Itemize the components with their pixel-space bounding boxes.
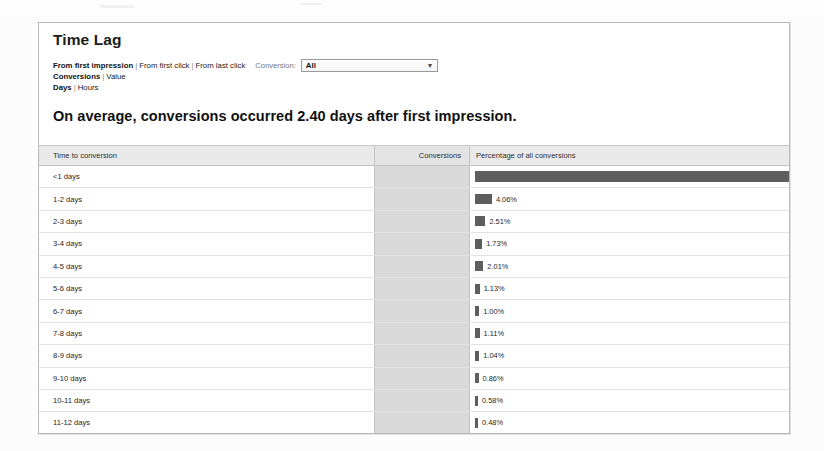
column-header-label: Conversions bbox=[419, 151, 469, 160]
percentage-label: 0.58% bbox=[482, 396, 503, 405]
cell-time-to-conversion: 7-8 days bbox=[39, 323, 374, 344]
cell-conversions bbox=[374, 211, 470, 232]
time-bucket-label: 10-11 days bbox=[39, 396, 90, 405]
page-title: Time Lag bbox=[53, 31, 122, 49]
percentage-bar bbox=[475, 171, 790, 182]
cell-percentage: 4.06% bbox=[471, 188, 790, 209]
bar-container: 1.04% bbox=[471, 351, 790, 361]
link-from-first-impression[interactable]: From first impression bbox=[53, 61, 133, 70]
table-row[interactable]: 8-9 days1.04% bbox=[39, 345, 790, 367]
cell-percentage: 0.86% bbox=[471, 368, 790, 389]
time-bucket-label: 3-4 days bbox=[39, 239, 82, 248]
column-header-time-to-conversion[interactable]: Time to conversion bbox=[39, 146, 374, 165]
table-header-row: Time to conversion Conversions Percentag… bbox=[39, 146, 790, 166]
cell-conversions bbox=[374, 188, 470, 209]
table-row[interactable]: 3-4 days1.73% bbox=[39, 233, 790, 255]
time-lag-table: Time to conversion Conversions Percentag… bbox=[39, 145, 790, 434]
table-row[interactable]: 2-3 days2.51% bbox=[39, 211, 790, 233]
conversion-filter-label: Conversion: bbox=[245, 61, 296, 70]
cell-conversions bbox=[374, 300, 470, 321]
time-bucket-label: 9-10 days bbox=[39, 374, 86, 383]
table-row[interactable]: 5-6 days1.13% bbox=[39, 278, 790, 300]
cell-time-to-conversion: 5-6 days bbox=[39, 278, 374, 299]
percentage-label: 4.06% bbox=[496, 195, 517, 204]
link-conversions[interactable]: Conversions bbox=[53, 72, 100, 81]
percentage-bar bbox=[475, 328, 480, 338]
link-from-last-click[interactable]: From last click bbox=[195, 61, 245, 70]
column-header-conversions[interactable]: Conversions bbox=[374, 146, 470, 165]
cell-time-to-conversion: <1 days bbox=[39, 166, 374, 187]
cell-conversions bbox=[374, 368, 470, 389]
table-row[interactable]: 1-2 days4.06% bbox=[39, 188, 790, 210]
cell-percentage: 1.11% bbox=[471, 323, 790, 344]
table-row[interactable]: 11-12 days0.48% bbox=[39, 412, 790, 434]
chevron-down-icon: ▾ bbox=[425, 61, 435, 71]
bar-container: 1.13% bbox=[471, 284, 790, 294]
percentage-label: 1.13% bbox=[484, 284, 505, 293]
cell-percentage: 75.71% bbox=[471, 166, 790, 187]
column-header-label: Time to conversion bbox=[39, 151, 117, 160]
cell-conversions bbox=[374, 233, 470, 254]
cell-time-to-conversion: 9-10 days bbox=[39, 368, 374, 389]
bar-container: 1.73% bbox=[471, 239, 790, 249]
percentage-bar bbox=[475, 351, 479, 361]
time-bucket-label: 4-5 days bbox=[39, 262, 82, 271]
conversion-filter-value: All bbox=[306, 61, 316, 72]
bar-container: 0.86% bbox=[471, 373, 790, 383]
summary-headline: On average, conversions occurred 2.40 da… bbox=[53, 108, 516, 124]
cell-percentage: 1.00% bbox=[471, 300, 790, 321]
cell-percentage: 1.04% bbox=[471, 345, 790, 366]
percentage-bar bbox=[475, 216, 485, 226]
percentage-label: 0.48% bbox=[482, 418, 503, 427]
scan-artifact-top bbox=[0, 0, 824, 16]
percentage-bar bbox=[475, 396, 478, 406]
percentage-bar bbox=[475, 194, 492, 204]
cell-conversions bbox=[374, 412, 470, 433]
percentage-label: 2.51% bbox=[489, 217, 510, 226]
link-hours[interactable]: Hours bbox=[78, 83, 99, 92]
time-bucket-label: 8-9 days bbox=[39, 351, 82, 360]
cell-percentage: 2.01% bbox=[471, 256, 790, 277]
link-days[interactable]: Days bbox=[53, 83, 72, 92]
table-row[interactable]: <1 days75.71% bbox=[39, 166, 790, 188]
table-row[interactable]: 4-5 days2.01% bbox=[39, 256, 790, 278]
cell-conversions bbox=[374, 256, 470, 277]
column-header-percentage[interactable]: Percentage of all conversions bbox=[471, 146, 790, 165]
cell-conversions bbox=[374, 278, 470, 299]
time-bucket-label: 7-8 days bbox=[39, 329, 82, 338]
cell-time-to-conversion: 1-2 days bbox=[39, 188, 374, 209]
table-row[interactable]: 9-10 days0.86% bbox=[39, 368, 790, 390]
cell-time-to-conversion: 11-12 days bbox=[39, 412, 374, 433]
bar-container: 1.11% bbox=[471, 328, 790, 338]
percentage-label: 1.04% bbox=[483, 351, 504, 360]
link-value[interactable]: Value bbox=[106, 72, 125, 81]
scan-speck bbox=[100, 5, 134, 8]
table-row[interactable]: 6-7 days1.00% bbox=[39, 300, 790, 322]
bar-container: 75.71% bbox=[471, 171, 790, 182]
cell-time-to-conversion: 8-9 days bbox=[39, 345, 374, 366]
percentage-bar bbox=[475, 418, 478, 428]
bar-container: 2.51% bbox=[471, 216, 790, 226]
cell-time-to-conversion: 10-11 days bbox=[39, 390, 374, 411]
time-bucket-label: <1 days bbox=[39, 172, 80, 181]
scan-speck bbox=[300, 3, 322, 5]
cell-time-to-conversion: 3-4 days bbox=[39, 233, 374, 254]
percentage-label: 1.11% bbox=[484, 329, 504, 338]
table-row[interactable]: 10-11 days0.58% bbox=[39, 390, 790, 412]
link-from-first-click[interactable]: From first click bbox=[139, 61, 189, 70]
bar-container: 1.00% bbox=[471, 306, 790, 316]
cell-percentage: 1.13% bbox=[471, 278, 790, 299]
percentage-bar bbox=[475, 284, 480, 294]
time-bucket-label: 11-12 days bbox=[39, 418, 90, 427]
time-bucket-label: 5-6 days bbox=[39, 284, 82, 293]
metric-links-row: Conversions|Value bbox=[53, 72, 773, 83]
report-controls: From first impression|From first click|F… bbox=[53, 59, 773, 93]
bar-container: 0.58% bbox=[471, 396, 790, 406]
bar-container: 0.48% bbox=[471, 418, 790, 428]
table-row[interactable]: 7-8 days1.11% bbox=[39, 323, 790, 345]
percentage-bar bbox=[475, 306, 479, 316]
conversion-filter-select[interactable]: All▾ bbox=[301, 59, 438, 72]
attribution-links-row: From first impression|From first click|F… bbox=[53, 59, 773, 72]
cell-conversions bbox=[374, 166, 470, 187]
cell-percentage: 0.48% bbox=[471, 412, 790, 433]
